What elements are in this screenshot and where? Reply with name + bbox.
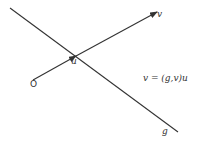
vector-u xyxy=(33,56,76,80)
g-label: g xyxy=(162,127,168,136)
diagram-canvas xyxy=(0,0,199,143)
origin-label: O xyxy=(30,80,37,89)
vector-v xyxy=(76,12,157,56)
vector-projection-diagram: O u v g v = (g,v)u xyxy=(0,0,199,143)
line-g xyxy=(10,8,178,132)
u-label: u xyxy=(71,57,77,66)
v-label: v xyxy=(157,10,162,19)
projection-equation: v = (g,v)u xyxy=(143,74,188,83)
